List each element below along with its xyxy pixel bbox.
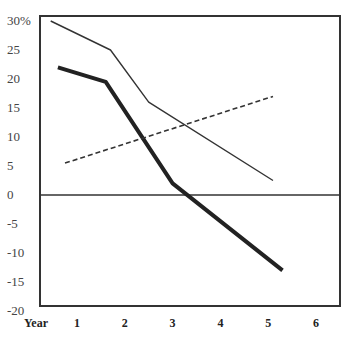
y-tick-label: 30% xyxy=(7,13,31,28)
series-group xyxy=(51,21,283,270)
line-chart: 30%2520151050-5-10-15-20 Year123456 xyxy=(0,0,351,343)
y-tick-label: 25 xyxy=(7,42,20,57)
x-tick-label: 6 xyxy=(313,316,319,330)
x-tick-label: 4 xyxy=(217,316,223,330)
x-axis-label: Year xyxy=(24,316,49,330)
y-tick-label: 10 xyxy=(7,129,20,144)
series-dashed xyxy=(65,96,273,163)
y-tick-label: 15 xyxy=(7,100,20,115)
x-tick-label: 3 xyxy=(170,316,176,330)
x-tick-label: 5 xyxy=(265,316,271,330)
series-thick-solid xyxy=(58,67,283,270)
y-tick-label: -10 xyxy=(7,245,24,260)
y-axis-ticks: 30%2520151050-5-10-15-20 xyxy=(7,13,31,318)
y-tick-label: 0 xyxy=(7,187,14,202)
y-tick-label: -15 xyxy=(7,274,24,289)
y-tick-label: -20 xyxy=(7,303,24,318)
y-tick-label: -5 xyxy=(7,216,18,231)
plot-frame xyxy=(40,16,340,306)
x-axis-ticks: Year123456 xyxy=(24,316,319,330)
y-tick-label: 20 xyxy=(7,71,20,86)
x-tick-label: 1 xyxy=(74,316,80,330)
x-tick-label: 2 xyxy=(122,316,128,330)
y-tick-label: 5 xyxy=(7,158,14,173)
